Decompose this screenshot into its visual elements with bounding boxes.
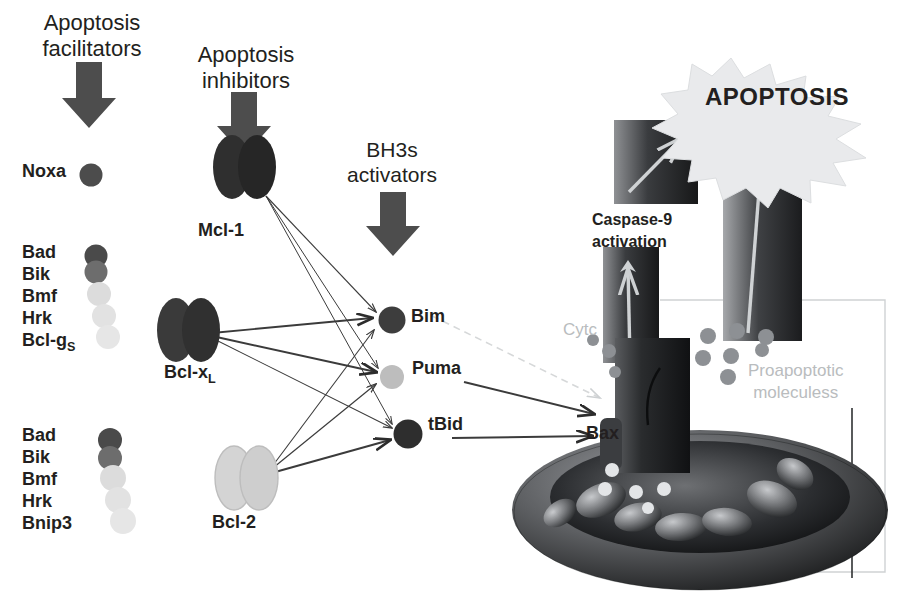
- bim-glyph: [379, 307, 406, 334]
- label-caspase9-activation: Caspase-9 activation: [592, 209, 672, 253]
- puma-glyph: [380, 365, 404, 389]
- header-bh3s-activators: BH3s activators: [322, 138, 462, 188]
- mcl1-glyph: [213, 135, 276, 199]
- label-bcl2: Bcl-2: [212, 512, 256, 532]
- label-mcl1: Mcl-1: [198, 220, 244, 240]
- label-apoptosis: APOPTOSIS: [705, 84, 849, 111]
- bcl2-glyph: [215, 446, 278, 510]
- label-bax: Bax: [586, 423, 619, 443]
- list-item: Bad: [22, 424, 72, 446]
- label-bclxl-subscript: L: [208, 372, 216, 386]
- list-item: Bmf: [22, 468, 72, 490]
- list-item: Bik: [22, 446, 72, 468]
- list-item: Bad: [22, 241, 75, 263]
- protein-list-1: Bad Bik Bmf Hrk Bcl-gS: [22, 241, 75, 358]
- label-tbid: tBid: [428, 414, 463, 434]
- list-item: Bmf: [22, 285, 75, 307]
- bclxl-glyph: [157, 298, 220, 362]
- list-item: Bcl-gS: [22, 329, 75, 358]
- tbid-glyph: [394, 420, 423, 449]
- noxa-glyph: [80, 164, 103, 187]
- diagram-canvas: Apoptosis facilitators Apoptosis inhibit…: [0, 0, 903, 615]
- label-proapoptotic-molecules: Proapoptotic moleculess: [748, 360, 843, 404]
- list-item-text: Bcl-g: [22, 330, 67, 350]
- protein-list-2: Bad Bik Bmf Hrk Bnip3: [22, 424, 72, 534]
- label-puma: Puma: [412, 358, 461, 378]
- label-bclxl: Bcl-xL: [164, 362, 216, 386]
- list-item: Hrk: [22, 490, 72, 512]
- header-apoptosis-inhibitors: Apoptosis inhibitors: [172, 42, 320, 94]
- label-bim: Bim: [411, 306, 445, 326]
- list-item: Bnip3: [22, 512, 72, 534]
- label-noxa: Noxa: [22, 161, 66, 181]
- label-cytc: Cytc: [563, 320, 597, 339]
- label-bclxl-text: Bcl-x: [164, 362, 208, 382]
- list1-beads: [85, 245, 121, 350]
- list-item: Hrk: [22, 307, 75, 329]
- list-item-subscript: S: [67, 340, 75, 354]
- header-apoptosis-facilitators: Apoptosis facilitators: [18, 10, 166, 62]
- list2-beads: [98, 428, 136, 534]
- list-item: Bik: [22, 263, 75, 285]
